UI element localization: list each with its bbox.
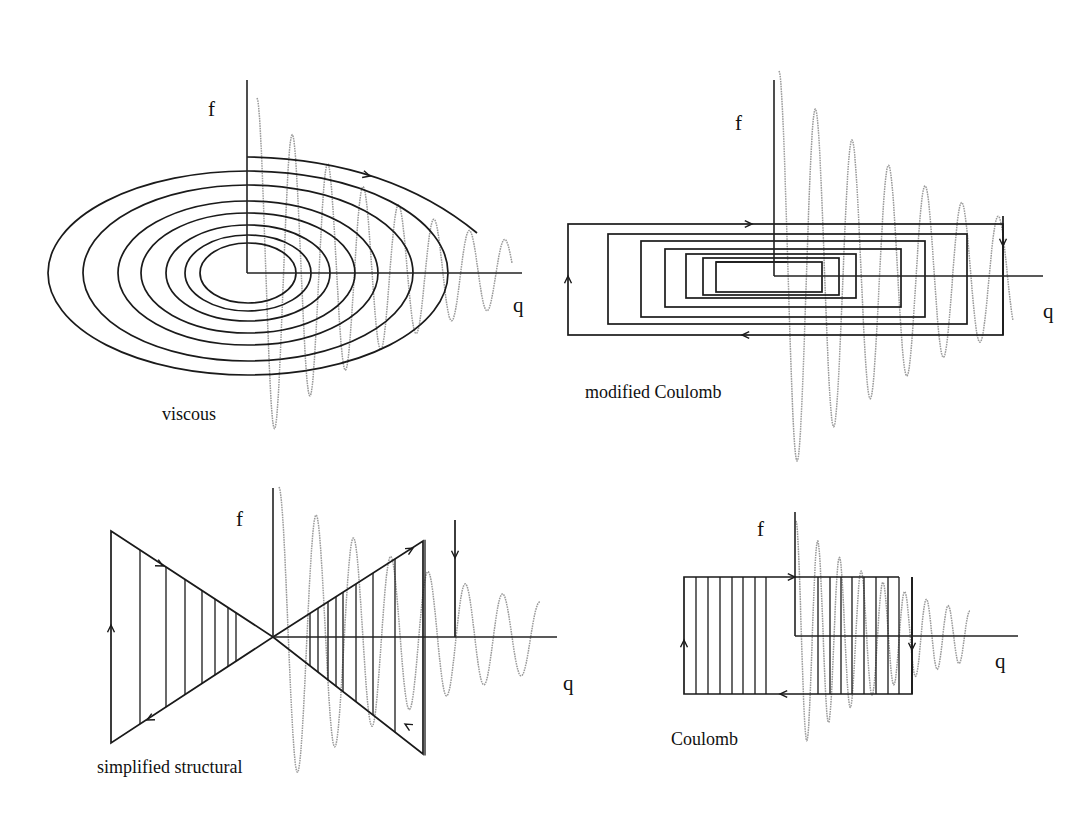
direction-arrows-icon bbox=[108, 548, 459, 731]
coulomb-panel: f q Coulomb bbox=[671, 512, 1018, 749]
f-axis-label: f bbox=[757, 517, 764, 541]
viscous-damping-panel: f q viscous bbox=[48, 80, 524, 429]
panel-title-viscous: viscous bbox=[162, 404, 216, 424]
response-wave bbox=[257, 98, 512, 429]
f-axis-label: f bbox=[735, 111, 742, 135]
panel-title-modified-coulomb: modified Coulomb bbox=[585, 382, 722, 402]
f-axis-label: f bbox=[236, 507, 243, 531]
simplified-structural-panel: f q simplified structural bbox=[97, 487, 574, 777]
axes bbox=[795, 512, 1018, 636]
viscous-ellipse-loops bbox=[48, 157, 477, 375]
q-axis-label: q bbox=[1043, 299, 1054, 323]
axes bbox=[273, 488, 557, 637]
response-wave bbox=[796, 521, 970, 741]
damping-hysteresis-figure: f q viscous f q modified Coulomb f q sim… bbox=[0, 0, 1085, 822]
panel-title-coulomb: Coulomb bbox=[671, 729, 738, 749]
modified-coulomb-panel: f q modified Coulomb bbox=[565, 71, 1054, 461]
direction-arrows-icon bbox=[565, 221, 1007, 339]
q-axis-label: q bbox=[563, 671, 574, 695]
response-wave bbox=[779, 71, 1013, 461]
q-axis-label: q bbox=[995, 649, 1006, 673]
panel-title-simplified-structural: simplified structural bbox=[97, 757, 242, 777]
f-axis-label: f bbox=[208, 97, 215, 121]
q-axis-label: q bbox=[513, 293, 524, 317]
